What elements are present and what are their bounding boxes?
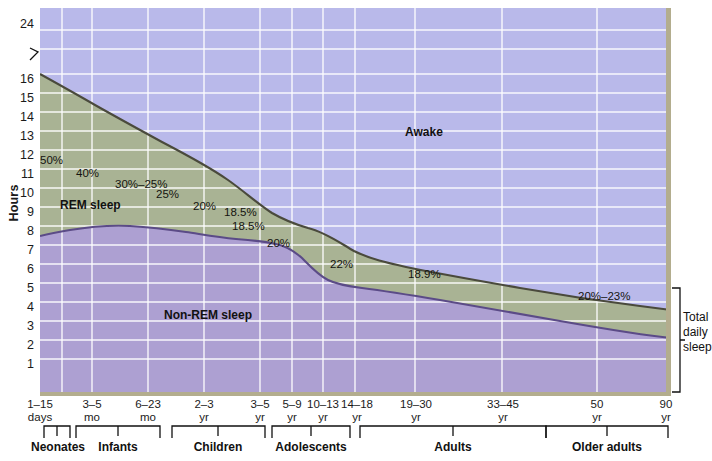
group-label-adolescents: Adolescents xyxy=(252,440,370,454)
x-tick-1: 3–5 mo xyxy=(70,398,114,424)
y-tick-4: 4 xyxy=(6,301,34,313)
x-tick-0: 1–15 days xyxy=(18,398,62,424)
x-tick-7: 14–18 yr xyxy=(333,398,381,424)
x-tick-8: 19–30 yr xyxy=(392,398,440,424)
x-tick-3: 2–3 yr xyxy=(182,398,226,424)
x-tick-10: 50 yr xyxy=(575,398,619,424)
y-tick-14: 14 xyxy=(6,111,34,123)
y-tick-6: 6 xyxy=(6,263,34,275)
group-label-older-adults: Older adults xyxy=(548,440,666,454)
tds-line-3: sleep xyxy=(683,340,712,355)
y-tick-15: 15 xyxy=(6,92,34,104)
tds-line-1: Total xyxy=(683,310,712,325)
y-tick-16: 16 xyxy=(6,73,34,85)
plot-baseline xyxy=(40,392,671,396)
total-daily-sleep-text: Total daily sleep xyxy=(683,310,712,355)
plot-area: Awake REM sleep Non-REM sleep 50% 40% 30… xyxy=(40,8,671,392)
y-tick-8: 8 xyxy=(6,225,34,237)
y-tick-10: 10 xyxy=(6,187,34,199)
y-axis-title: Hours xyxy=(7,173,21,233)
y-tick-13: 13 xyxy=(6,130,34,142)
x-tick-9: 33–45 yr xyxy=(479,398,527,424)
group-label-adults: Adults xyxy=(398,440,508,454)
tds-line-2: daily xyxy=(683,325,712,340)
y-tick-9: 9 xyxy=(6,206,34,218)
y-tick-7: 7 xyxy=(6,244,34,256)
y-tick-3: 3 xyxy=(6,320,34,332)
y-tick-2: 2 xyxy=(6,339,34,351)
y-tick-5: 5 xyxy=(6,282,34,294)
group-label-children: Children xyxy=(176,440,260,454)
y-tick-1: 1 xyxy=(6,358,34,370)
y-tick-11: 11 xyxy=(6,168,34,180)
group-label-infants: Infants xyxy=(78,440,158,454)
y-tick-12: 12 xyxy=(6,149,34,161)
x-tick-11: 90 yr xyxy=(644,398,688,424)
y-tick-24: 24 xyxy=(6,18,34,30)
x-tick-2: 6–23 mo xyxy=(126,398,170,424)
